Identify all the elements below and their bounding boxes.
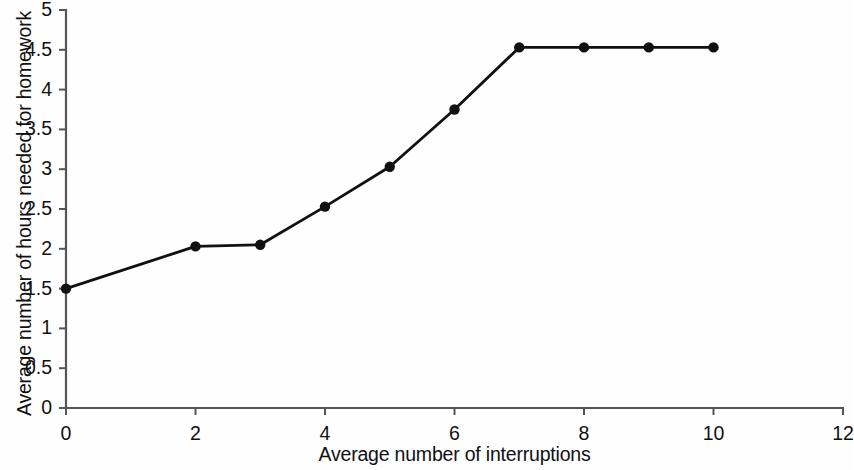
data-point-marker (449, 104, 459, 114)
data-point-marker (320, 201, 330, 211)
data-point-markers (61, 42, 719, 294)
data-point-marker (579, 42, 589, 52)
data-point-marker (190, 241, 200, 251)
data-point-marker (61, 283, 71, 293)
data-point-marker (385, 162, 395, 172)
data-point-marker (644, 42, 654, 52)
data-series-group (61, 42, 719, 294)
data-point-marker (514, 42, 524, 52)
data-point-marker (708, 42, 718, 52)
data-point-marker (255, 240, 265, 250)
axis-lines (66, 10, 843, 408)
